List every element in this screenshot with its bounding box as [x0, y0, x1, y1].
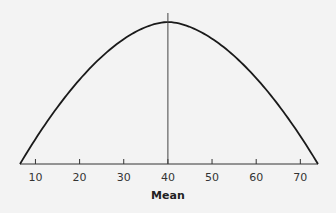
- x-tick-label: 10: [28, 171, 42, 184]
- x-tick-label: 50: [205, 171, 219, 184]
- distribution-curve: [20, 22, 318, 164]
- x-tick-label: 60: [249, 171, 263, 184]
- x-axis-tick-labels: 10203040506070: [28, 171, 307, 184]
- x-tick-label: 70: [293, 171, 307, 184]
- x-axis-title: Mean: [151, 189, 185, 202]
- x-tick-label: 20: [73, 171, 87, 184]
- x-tick-label: 30: [117, 171, 131, 184]
- x-tick-label: 40: [161, 171, 175, 184]
- chart: 10203040506070 Mean: [0, 0, 336, 213]
